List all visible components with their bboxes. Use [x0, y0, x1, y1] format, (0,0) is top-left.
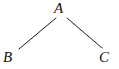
- node-label-a: A: [54, 1, 63, 16]
- node-label-b: B: [3, 50, 12, 65]
- edge-a-c: [67, 18, 102, 48]
- tree-diagram: A B C: [0, 0, 119, 69]
- node-label-c: C: [99, 50, 109, 65]
- edge-a-b: [19, 18, 56, 49]
